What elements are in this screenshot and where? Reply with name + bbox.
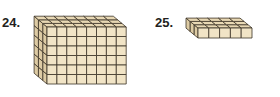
problem-25-cube-prism-figure <box>0 0 280 97</box>
